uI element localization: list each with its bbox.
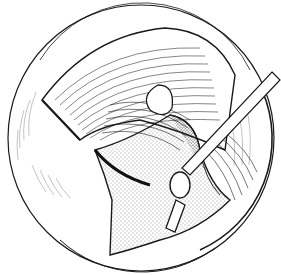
illustration xyxy=(0,0,281,275)
retracted-tissue-flap xyxy=(42,28,235,150)
surgical-illustration xyxy=(0,0,281,275)
instrument-tip xyxy=(170,172,190,198)
